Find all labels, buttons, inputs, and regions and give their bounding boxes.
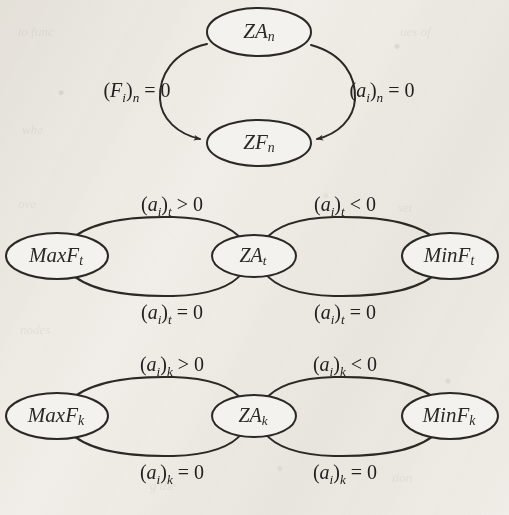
- edge-t-right-bottom-arc: [264, 270, 440, 296]
- edge-k-right-top-label: (ai)k < 0: [313, 353, 377, 379]
- edge-k-right-bottom-arc: [264, 430, 440, 456]
- edge-t-right-top-arc: [264, 217, 440, 243]
- edge-k-right-top-arc: [264, 377, 440, 403]
- edge-t-left-bottom-arc: [67, 270, 243, 296]
- edge-k-left-top-label: (ai)k > 0: [140, 353, 204, 379]
- edge-n-right-arc: [311, 45, 355, 139]
- edge-t-left-bottom-label: (ai)t = 0: [141, 301, 203, 327]
- node-maxf-k-label: MaxFk: [27, 403, 85, 428]
- edge-n-right-label: (ai)n = 0: [350, 79, 415, 105]
- node-minf-k-label: MinFk: [422, 403, 477, 428]
- edge-k-left-bottom-arc: [67, 430, 243, 456]
- node-maxf-t-label: MaxFt: [28, 243, 84, 268]
- node-minf-t-label: MinFt: [423, 243, 476, 268]
- edge-k-left-bottom-label: (ai)k = 0: [140, 461, 204, 487]
- edge-t-left-top-label: (ai)t > 0: [141, 193, 203, 219]
- figure-page: to func ues of whe ove set nodes g the t…: [0, 0, 509, 515]
- state-transition-diagram: ZAn ZFn MaxFt ZAt MinFt MaxFk ZAk MinFk: [0, 0, 509, 515]
- edge-t-right-top-label: (ai)t < 0: [314, 193, 376, 219]
- node-za-t-label: ZAt: [239, 244, 266, 268]
- edge-k-right-bottom-label: (ai)k = 0: [313, 461, 377, 487]
- edge-t-right-bottom-label: (ai)t = 0: [314, 301, 376, 327]
